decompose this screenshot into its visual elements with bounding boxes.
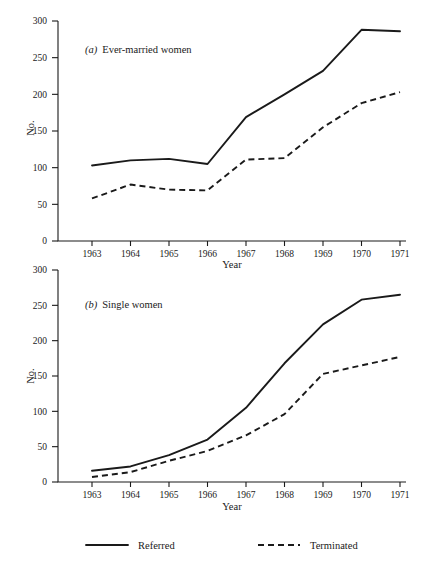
x-tick-label: 1970 [352,490,371,500]
x-tick-label: 1969 [314,249,333,259]
y-tick-label: 250 [33,53,48,63]
x-tick-label: 1968 [275,490,294,500]
x-tick-label: 1969 [314,490,333,500]
x-tick-label: 1966 [198,249,217,259]
panel-b-y-ticks: 050100150200250300 [33,265,58,487]
panel-a: 050100150200250300 196319641965196619671… [25,16,410,270]
x-tick-label: 1967 [237,490,256,500]
y-tick-label: 300 [33,265,48,275]
x-tick-label: 1970 [352,249,371,259]
panel-a-label: (a) [85,44,98,56]
x-tick-label: 1965 [160,249,179,259]
y-tick-label: 200 [33,336,48,346]
y-tick-label: 50 [38,442,48,452]
legend-label-referred: Referred [138,540,175,551]
panel-a-y-ticks: 050100150200250300 [33,16,58,246]
panel-a-x-ticks: 196319641965196619671968196919701971 [83,241,410,259]
panel-a-title: (a)Ever-married women [85,44,192,56]
x-tick-label: 1964 [121,490,140,500]
x-tick-label: 1968 [275,249,294,259]
panel-a-y-axis-label: No. [25,120,36,135]
panel-b-title-text: Single women [102,299,163,310]
y-tick-label: 0 [42,477,47,487]
y-tick-label: 100 [33,407,48,417]
x-tick-label: 1971 [391,249,410,259]
y-tick-label: 200 [33,90,48,100]
x-tick-label: 1965 [160,490,179,500]
panel-b-title: (b)Single women [85,299,163,311]
panel-b-x-axis-label: Year [222,501,242,512]
legend-label-terminated: Terminated [310,540,358,551]
legend: Referred Terminated [86,540,358,551]
x-tick-label: 1966 [198,490,217,500]
x-tick-label: 1967 [237,249,256,259]
panel-a-title-text: Ever-married women [102,44,192,55]
two-panel-line-chart: 050100150200250300 196319641965196619671… [0,0,423,561]
panel-b-series-terminated [92,357,400,477]
y-tick-label: 250 [33,301,48,311]
figure-container: 050100150200250300 196319641965196619671… [0,0,423,561]
panel-a-series-terminated [92,92,400,198]
y-tick-label: 100 [33,163,48,173]
x-tick-label: 1964 [121,249,140,259]
y-tick-label: 0 [42,236,47,246]
panel-b-series-referred [92,295,400,471]
panel-b-y-axis-label: No. [25,368,36,383]
panel-b: 050100150200250300 196319641965196619671… [25,265,410,512]
panel-b-label: (b) [85,299,98,311]
y-tick-label: 50 [38,200,48,210]
panel-b-x-ticks: 196319641965196619671968196919701971 [83,482,410,500]
panel-a-x-axis-label: Year [222,259,242,270]
x-tick-label: 1963 [83,249,102,259]
x-tick-label: 1971 [391,490,410,500]
y-tick-label: 300 [33,16,48,26]
x-tick-label: 1963 [83,490,102,500]
